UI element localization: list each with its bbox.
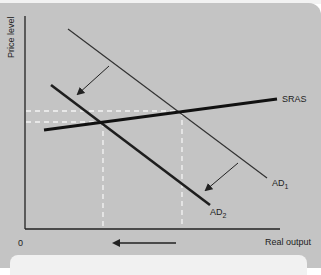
sras-label: SRAS (282, 94, 307, 104)
ad2-label-main: AD (210, 207, 223, 217)
sras-curve (44, 99, 277, 130)
shift-arrow-upper (78, 66, 109, 94)
ad2-label-sub: 2 (223, 212, 227, 219)
y-axis-label: Price level (6, 16, 16, 58)
ad1-label: AD1 (272, 178, 288, 190)
shift-arrow-lower (206, 163, 238, 190)
ad2-curve (51, 85, 210, 205)
ad2-label: AD2 (210, 207, 226, 219)
caption-box (10, 255, 307, 275)
origin-label: 0 (18, 238, 23, 248)
x-axis-label: Real output (265, 237, 311, 247)
ad1-label-sub: 1 (285, 183, 289, 190)
ad1-label-main: AD (272, 178, 285, 188)
